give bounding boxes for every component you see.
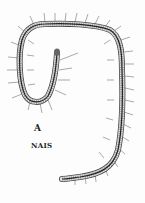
worm-head xyxy=(54,49,60,56)
illustration: A NAIS xyxy=(0,0,145,203)
worm-gut xyxy=(20,24,123,179)
figure-caption: NAIS xyxy=(31,141,52,150)
figure-letter: A xyxy=(34,123,41,133)
worm-drawing xyxy=(0,0,145,203)
